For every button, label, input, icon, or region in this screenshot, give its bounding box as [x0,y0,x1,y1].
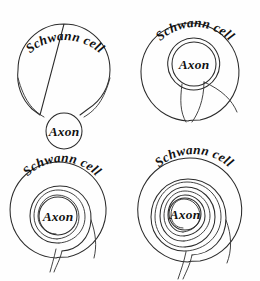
panel-3-stage-3: Schwann cell Axon [0,148,130,281]
schwann-cell-label-2: Schwann cell [153,15,238,44]
schwann-cell-label-text-1: Schwann cell [23,28,108,56]
schwann-shoulder-right-1 [84,78,110,117]
schwann-cell-label-text-2: Schwann cell [153,15,238,44]
schwann-cell-label-text-4: Schwann cell [152,148,237,170]
inner-cytoplasm-curve-3 [91,220,96,258]
axon-label-2: Axon [178,57,210,72]
svg-text:Schwann cell: Schwann cell [20,150,105,179]
axon-label-1: Axon [48,124,80,139]
inner-cytoplasm-curve-4 [226,220,231,263]
svg-text:Schwann cell: Schwann cell [23,28,108,56]
panel-4-stage-4: Schwann cell Axon [128,148,260,281]
mesaxon-line-outer-2 [181,84,186,122]
axon-label-3: Axon [42,209,74,224]
svg-text:Schwann cell: Schwann cell [153,15,238,44]
axon-label-4: Axon [169,207,201,222]
schwann-cell-label-3: Schwann cell [20,150,105,179]
myelination-diagram: Schwann cell Axon Schwann cell Axon [0,0,260,281]
schwann-cell-label-4: Schwann cell [152,148,237,170]
panel-1-stage-1: Schwann cell Axon [0,0,130,150]
schwann-shoulder-left-1 [18,78,44,117]
mesaxon-line-inner-2 [192,82,204,122]
schwann-cell-label-text-3: Schwann cell [20,150,105,179]
panel-2-stage-2: Schwann cell Axon [130,0,260,150]
svg-text:Schwann cell: Schwann cell [152,148,237,170]
schwann-cell-label-1: Schwann cell [23,28,108,56]
